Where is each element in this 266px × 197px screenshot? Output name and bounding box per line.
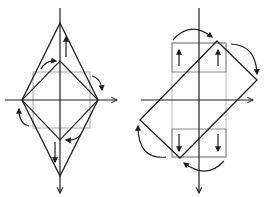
diagram-canvas — [0, 0, 266, 197]
curved-arrow-bottom-icon — [184, 161, 224, 171]
curved-arrow-top-icon — [173, 29, 212, 40]
curved-arrow-right-icon — [92, 76, 102, 90]
left-panel — [5, 8, 117, 193]
right-panel — [138, 8, 257, 193]
